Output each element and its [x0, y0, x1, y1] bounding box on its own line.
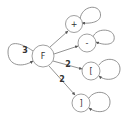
state-diagram: F + - [ ] 3 2 2 — [0, 0, 128, 118]
diagram-svg: F + - [ ] 3 2 2 — [0, 0, 128, 118]
edge-label-F-lbracket: 2 — [65, 60, 71, 69]
svg-text:]: ] — [79, 99, 82, 108]
node-rbracket: ] — [72, 94, 90, 112]
edge-rbracket-self — [89, 92, 110, 111]
edge-label-F-rbracket: 2 — [59, 75, 65, 84]
svg-text:[: [ — [89, 67, 92, 76]
edge-lbracket-self — [99, 59, 120, 79]
node-minus: - — [78, 34, 96, 52]
edge-F-self — [8, 44, 33, 65]
edge-plus-self — [80, 7, 101, 23]
node-lbracket: [ — [82, 62, 100, 80]
svg-text:+: + — [71, 20, 78, 29]
svg-text:F: F — [41, 52, 46, 61]
edge-F-plus — [50, 31, 68, 47]
svg-text:-: - — [86, 39, 89, 48]
node-plus: + — [66, 16, 83, 33]
edge-F-minus — [54, 46, 78, 54]
node-F: F — [32, 45, 54, 67]
edge-label-F-self: 3 — [22, 46, 28, 55]
